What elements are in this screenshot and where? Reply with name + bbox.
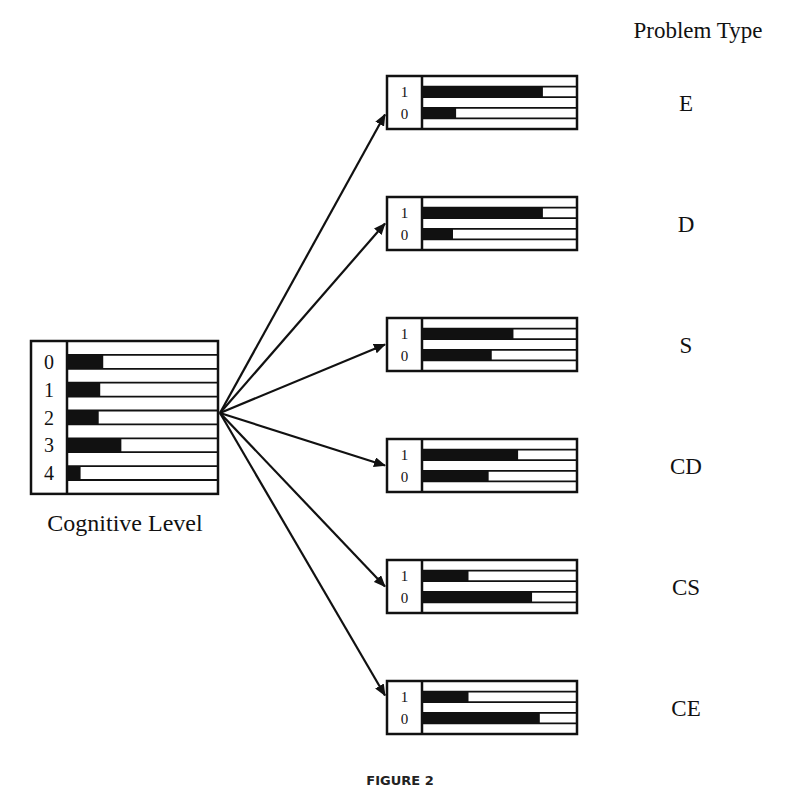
problem-type-cd-label: CD — [670, 454, 702, 479]
problem-type-cd-state-label: 1 — [401, 447, 409, 463]
problem-type-e-frame — [387, 76, 577, 129]
cognitive-level-frame — [31, 341, 218, 494]
arrow-to-ce — [220, 413, 385, 696]
problem-type-cd-frame — [387, 439, 577, 492]
cognitive-level-bar-fill-state-1 — [67, 383, 100, 397]
problem-type-d-state-label: 1 — [401, 205, 409, 221]
arrow-to-d — [220, 224, 385, 414]
problem-type-e-bar-fill-state-1 — [422, 87, 543, 98]
problem-type-cd-bar-fill-state-1 — [422, 450, 518, 461]
problem-type-cs-bar-fill-state-0 — [422, 592, 532, 603]
arrows-group — [220, 115, 385, 696]
bayesian-network-diagram: Problem Type 01234 10E10D10S10CD10CS10CE… — [0, 0, 798, 795]
cognitive-level-label: Cognitive Level — [47, 510, 203, 536]
problem-type-e-state-label: 1 — [401, 84, 409, 100]
cognitive-level-state-label: 4 — [44, 462, 54, 484]
problem-type-s-state-label: 1 — [401, 326, 409, 342]
problem-type-d-frame — [387, 197, 577, 250]
problem-type-d-box: 10 — [387, 197, 577, 250]
problem-type-nodes: 10E10D10S10CD10CS10CE — [387, 76, 702, 734]
problem-type-cs-bar-fill-state-1 — [422, 571, 469, 582]
problem-type-s-label: S — [680, 333, 693, 358]
problem-type-cs-state-label: 0 — [401, 590, 409, 606]
problem-type-ce-bar-fill-state-0 — [422, 713, 540, 724]
problem-type-cs-label: CS — [672, 575, 700, 600]
problem-type-cs-state-label: 1 — [401, 568, 409, 584]
cognitive-level-bar-fill-state-0 — [67, 355, 103, 369]
problem-type-s-frame — [387, 318, 577, 371]
problem-type-cd-state-label: 0 — [401, 469, 409, 485]
problem-type-d-label: D — [678, 212, 695, 237]
figure-caption: FIGURE 2 — [366, 773, 433, 788]
problem-type-cs-box: 10 — [387, 560, 577, 613]
problem-type-heading: Problem Type — [634, 18, 763, 43]
cognitive-level-node: 01234 — [31, 341, 218, 494]
problem-type-cs-frame — [387, 560, 577, 613]
problem-type-ce-box: 10 — [387, 681, 577, 734]
problem-type-s-box: 10 — [387, 318, 577, 371]
cognitive-level-bar-fill-state-2 — [67, 411, 99, 425]
problem-type-cd-bar-fill-state-0 — [422, 471, 489, 482]
problem-type-cd-box: 10 — [387, 439, 577, 492]
problem-type-ce-state-label: 0 — [401, 711, 409, 727]
problem-type-d-bar-fill-state-1 — [422, 208, 543, 219]
problem-type-s-state-label: 0 — [401, 348, 409, 364]
problem-type-ce-bar-fill-state-1 — [422, 692, 469, 703]
problem-type-s-bar-fill-state-0 — [422, 350, 492, 361]
cognitive-level-bar-fill-state-3 — [67, 438, 121, 452]
cognitive-level-box: 01234 — [31, 341, 218, 494]
problem-type-e-box: 10 — [387, 76, 577, 129]
problem-type-ce-frame — [387, 681, 577, 734]
problem-type-ce-label: CE — [671, 696, 700, 721]
cognitive-level-state-label: 1 — [44, 379, 54, 401]
problem-type-s-bar-fill-state-1 — [422, 329, 513, 340]
arrow-to-s — [220, 345, 385, 414]
problem-type-e-bar-fill-state-0 — [422, 108, 456, 119]
cognitive-level-state-label: 2 — [44, 407, 54, 429]
problem-type-d-bar-fill-state-0 — [422, 229, 453, 240]
cognitive-level-state-label: 3 — [44, 434, 54, 456]
problem-type-e-label: E — [679, 91, 693, 116]
cognitive-level-state-label: 0 — [44, 351, 54, 373]
problem-type-ce-state-label: 1 — [401, 689, 409, 705]
problem-type-d-state-label: 0 — [401, 227, 409, 243]
cognitive-level-bar-fill-state-4 — [67, 466, 81, 480]
arrow-to-e — [220, 115, 385, 414]
problem-type-e-state-label: 0 — [401, 106, 409, 122]
